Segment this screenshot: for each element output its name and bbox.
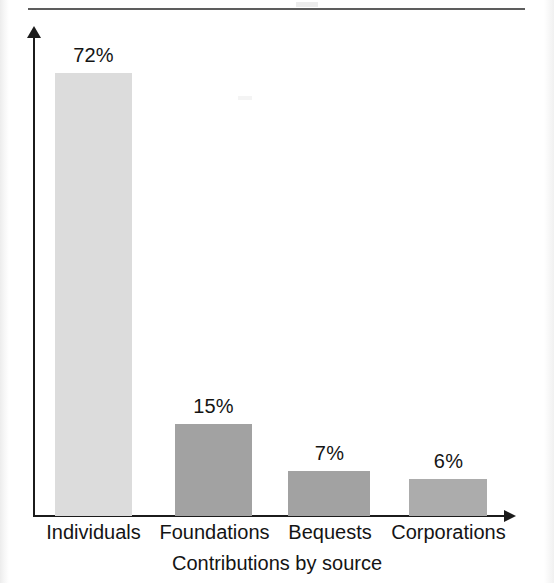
bar-individuals[interactable] (55, 73, 132, 516)
bar-value-corporations: 6% (398, 450, 499, 473)
bar-fill (55, 73, 132, 516)
bar-fill (175, 424, 252, 516)
bar-bequests[interactable] (288, 471, 370, 516)
bar-value-foundations: 15% (163, 395, 264, 418)
x-tick-label-foundations: Foundations (152, 521, 277, 544)
bar-value-bequests: 7% (279, 442, 380, 465)
x-axis-title: Contributions by source (0, 552, 554, 575)
x-tick-label-bequests: Bequests (275, 521, 385, 544)
bar-foundations[interactable] (175, 424, 252, 516)
bar-fill (409, 479, 487, 516)
x-tick-label-individuals: Individuals (33, 521, 154, 544)
y-axis-arrow-icon (27, 26, 41, 38)
chart-page: 72% 15% 7% 6% Individuals Foundations Be… (0, 0, 554, 583)
x-tick-label-corporations: Corporations (382, 521, 515, 544)
y-axis-line (33, 33, 35, 517)
bar-fill (288, 471, 370, 516)
bar-value-individuals: 72% (43, 44, 144, 67)
bar-corporations[interactable] (409, 479, 487, 516)
plot-area: 72% 15% 7% 6% Individuals Foundations Be… (0, 0, 554, 583)
